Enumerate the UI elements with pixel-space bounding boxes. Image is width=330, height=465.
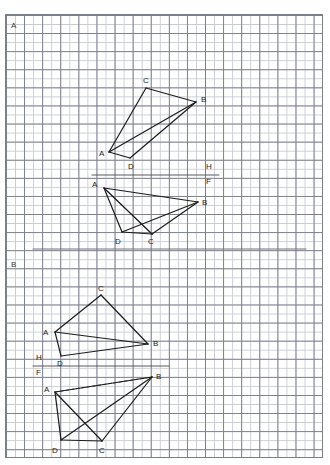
figure-a-bottom-vertex-label-B: B [202,199,207,207]
figure-a-top-edge-AC [109,88,146,152]
figure-b-top-vertex-label-B: B [153,340,158,348]
figure-a-top-edge-AD [109,152,130,158]
figure-a-top-edge-DB [130,102,196,158]
figure-a-top-vertex-label-B: B [201,96,206,104]
figure-b-bottom-edge-AB [55,377,152,392]
figure-b-top-edge-AC [55,295,101,332]
worksheet-sheet: HFHFABABCDABCDABCDABCD [0,0,330,465]
figure-b-top-edge-DB [61,344,148,356]
figure-b-top-vertex-label-D: D [57,360,63,368]
figure-b-bottom-vertex-label-C: C [99,447,105,455]
section-label-b: B [11,261,17,269]
figure-b-top-edge-CB [101,295,148,344]
figure-a-top-vertex-label-C: C [143,77,149,85]
figure-b-bottom-edge-DB [61,377,152,440]
figure-b-bottom-edge-AD [55,392,61,440]
figure-b-bottom-edge-CB [102,377,152,441]
figure-a-bottom-edge-DC [122,232,152,234]
figure-b-top-vertex-label-A: A [43,329,48,337]
ground-line-a-f-label: F [206,178,211,186]
figure-b-bottom-vertex-label-A: A [44,386,49,394]
figure-a-top-vertex-label-D: D [128,163,134,171]
figure-b-bottom-edge-DC [61,440,102,441]
figure-b-top-vertex-label-C: C [98,285,104,293]
figure-a-top-edge-CB [146,88,196,102]
ground-line-a-h-label: H [206,163,212,171]
figure-a-top-vertex-label-A: A [99,150,104,158]
section-label-a: A [11,22,17,30]
figure-a-bottom-vertex-label-D: D [115,238,121,246]
figure-a-bottom-edge-AC [104,188,152,234]
figure-a-bottom-vertex-label-A: A [92,181,97,189]
figure-a-bottom-vertex-label-C: C [148,238,154,246]
figure-a-bottom-edge-AB [104,188,198,202]
geometry-drawing-layer [0,0,330,465]
figure-a-top-edge-BA [109,102,196,152]
figure-b-bottom-vertex-label-B: B [156,373,161,381]
figure-a-bottom-edge-AD [104,188,122,232]
figure-b-top-edge-BA [55,332,148,344]
ground-line-b-f-label: F [36,369,41,377]
ground-line-b-h-label: H [36,354,42,362]
figure-b-top-edge-AD [55,332,61,356]
figure-b-bottom-vertex-label-D: D [52,447,58,455]
